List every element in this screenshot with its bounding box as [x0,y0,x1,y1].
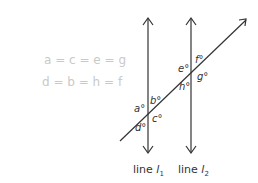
label-line-l1: line l1 [133,163,164,178]
angle-b: b° [150,95,161,106]
angle-e: e° [178,63,189,74]
angle-g: g° [197,71,208,82]
angle-f: f° [195,54,204,65]
angle-h: h° [179,81,190,92]
note-line-2: d = b = h = f [42,75,123,89]
note-line-1: a = c = e = g [44,53,126,67]
label-line-l2: line l2 [178,163,209,178]
angle-d: d° [135,122,146,133]
angle-a: a° [134,103,145,114]
angle-c: c° [152,113,163,124]
parallel-lines-diagram: a = c = e = g d = b = h = f a° b° c° d° … [0,0,258,183]
